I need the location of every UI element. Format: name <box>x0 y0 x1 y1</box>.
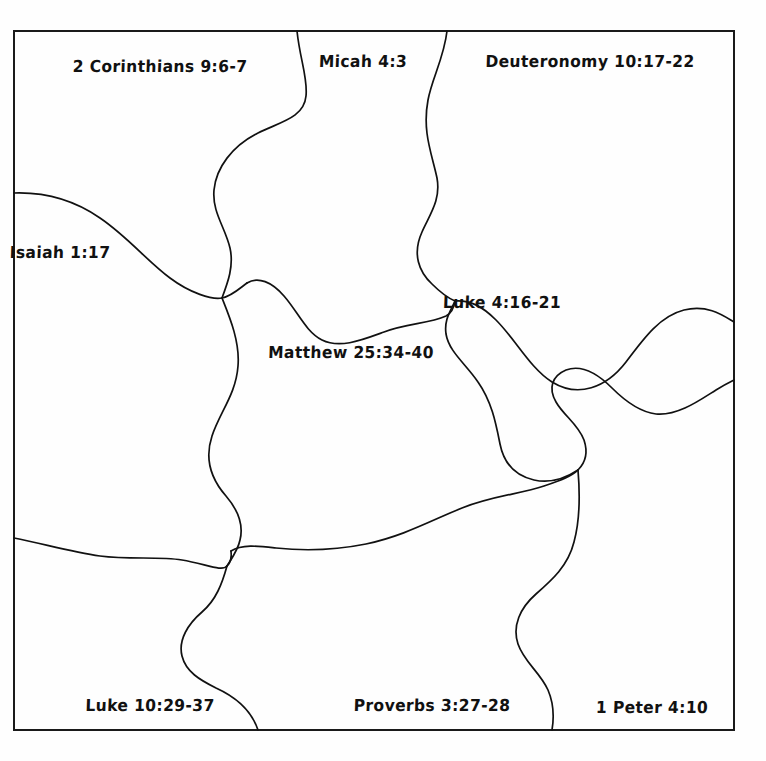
piece-label-isaiah: Isaiah 1:17 <box>9 245 110 261</box>
cut-mid-mid-right <box>446 301 578 481</box>
piece-label-deuteronomy: Deuteronomy 10:17-22 <box>485 54 695 70</box>
puzzle-outline-svg <box>0 0 766 761</box>
cut-bottom-mid-right <box>516 470 579 730</box>
piece-label-1-peter: 1 Peter 4:10 <box>596 700 709 716</box>
cut-mid-left-mid <box>209 298 241 566</box>
piece-label-matthew: Matthew 25:34-40 <box>268 345 434 361</box>
puzzle-canvas: 2 Corinthians 9:6-7 Micah 4:3 Deuteronom… <box>0 0 766 761</box>
cut-top-mid-right <box>417 31 455 301</box>
cut-mid-row2-row3 <box>231 470 578 551</box>
piece-label-micah: Micah 4:3 <box>319 54 408 70</box>
piece-label-luke-10: Luke 10:29-37 <box>85 698 215 714</box>
cut-right-row1-row2 <box>455 301 734 390</box>
puzzle-frame-border <box>14 31 734 730</box>
cut-left-row2-row3 <box>14 538 231 568</box>
cut-right-row2-row3 <box>552 368 734 470</box>
cut-mid-row1-row2 <box>247 280 455 344</box>
piece-label-proverbs: Proverbs 3:27-28 <box>353 698 510 714</box>
piece-label-luke-4: Luke 4:16-21 <box>443 295 562 311</box>
piece-label-2-corinthians: 2 Corinthians 9:6-7 <box>72 59 247 75</box>
